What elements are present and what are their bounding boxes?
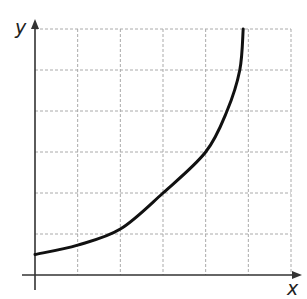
x-axis-label: x [287, 279, 298, 298]
y-axis [31, 19, 39, 290]
x-axis [22, 271, 302, 279]
y-axis-label: y [15, 18, 26, 37]
y-axis-arrow-icon [31, 19, 39, 29]
curve-line [35, 29, 243, 255]
grid-lines [35, 29, 291, 275]
graph [0, 0, 307, 299]
